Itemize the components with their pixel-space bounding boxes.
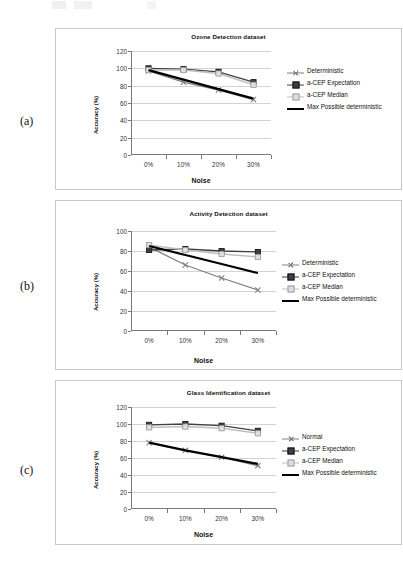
- y-tick-label: 100: [116, 228, 127, 235]
- legend-label: a-CEP Expectation: [302, 445, 355, 453]
- y-tick-label: 0: [123, 152, 127, 159]
- chart-legend: Deterministica-CEP Expectationa-CEP Medi…: [282, 259, 377, 307]
- x-tick-mark: [276, 331, 277, 335]
- x-tick-mark: [271, 155, 272, 159]
- plot-area: 0204060801001200%10%20%30%: [131, 51, 271, 155]
- y-tick-label: 0: [123, 506, 127, 513]
- x-tick-label: 30%: [251, 337, 264, 344]
- legend-label: a-CEP Median: [307, 91, 348, 99]
- series-max-possible-deterministic: [149, 443, 258, 464]
- x-tick-mark: [201, 155, 202, 159]
- legend-label: Deterministic: [302, 259, 338, 267]
- legend-item[interactable]: a-CEP Expectation: [282, 271, 377, 281]
- legend-label: Normal: [302, 433, 322, 441]
- legend-marker-icon: [282, 272, 299, 281]
- x-tick-mark: [204, 509, 205, 513]
- x-tick-mark: [167, 331, 168, 335]
- y-tick-label: 20: [120, 134, 127, 141]
- series-a-cep-median: [147, 424, 261, 436]
- y-tick-mark: [128, 509, 131, 510]
- legend-item[interactable]: Max Possible deterministic: [282, 469, 377, 479]
- x-tick-label: 0%: [145, 337, 154, 344]
- legend-item[interactable]: Deterministic: [287, 67, 382, 77]
- legend-item[interactable]: Deterministic: [282, 259, 377, 269]
- y-tick-label: 80: [120, 82, 127, 89]
- y-axis-title: Accuracy (%): [93, 96, 99, 134]
- legend-marker-icon: [282, 446, 299, 455]
- series-max-possible-deterministic: [149, 70, 254, 99]
- x-tick-label: 30%: [251, 515, 264, 522]
- y-tick-label: 40: [120, 472, 127, 479]
- legend-marker-icon: [287, 80, 304, 89]
- legend-item[interactable]: a-CEP Median: [282, 457, 377, 467]
- x-tick-label: 20%: [215, 337, 228, 344]
- x-tick-mark: [167, 509, 168, 513]
- y-axis-title: Accuracy (%): [93, 273, 99, 311]
- x-axis-title: Noise: [194, 531, 213, 538]
- legend-item[interactable]: Max Possible deterministic: [287, 103, 382, 113]
- x-tick-label: 0%: [145, 515, 154, 522]
- series-layer: [131, 51, 271, 155]
- cropped-text-artifact: [52, 1, 252, 9]
- legend-label: Max Possible deterministic: [302, 469, 377, 477]
- x-tick-label: 0%: [144, 161, 153, 168]
- legend-marker-icon: [282, 296, 299, 305]
- x-tick-label: 10%: [179, 337, 192, 344]
- y-tick-label: 100: [116, 421, 127, 428]
- y-tick-label: 120: [116, 404, 127, 411]
- legend-marker-icon: [287, 92, 304, 101]
- legend-marker-icon: [287, 104, 304, 113]
- y-axis-title: Accuracy (%): [93, 451, 99, 489]
- y-tick-mark: [128, 155, 131, 156]
- legend-marker-icon: [282, 260, 299, 269]
- legend-label: Deterministic: [307, 67, 343, 75]
- panel-label-a: (a): [20, 114, 33, 129]
- legend-item[interactable]: Max Possible deterministic: [282, 295, 377, 305]
- legend-item[interactable]: a-CEP Expectation: [287, 79, 382, 89]
- y-tick-label: 60: [120, 100, 127, 107]
- figure-page: (a) (b) (c) Ozone Detection dataset02040…: [0, 0, 403, 573]
- x-tick-label: 10%: [177, 161, 190, 168]
- chart-legend: Deterministica-CEP Expectationa-CEP Medi…: [287, 67, 382, 115]
- chart-title: Glass Identification dataset: [56, 389, 401, 396]
- plot-area: 0204060801001200%10%20%30%: [131, 407, 276, 509]
- x-tick-mark: [276, 509, 277, 513]
- legend-marker-icon: [282, 434, 299, 443]
- x-tick-label: 10%: [179, 515, 192, 522]
- x-tick-mark: [204, 331, 205, 335]
- x-tick-label: 30%: [247, 161, 260, 168]
- panel-label-b: (b): [20, 279, 34, 294]
- y-tick-label: 40: [120, 288, 127, 295]
- legend-label: a-CEP Median: [302, 457, 343, 465]
- legend-label: Max Possible deterministic: [302, 295, 377, 303]
- y-tick-label: 0: [123, 328, 127, 335]
- y-tick-label: 40: [120, 117, 127, 124]
- x-tick-label: 20%: [212, 161, 225, 168]
- x-tick-mark: [166, 155, 167, 159]
- chart-panel-b: Activity Detection dataset0204060801000%…: [55, 200, 402, 370]
- legend-label: a-CEP Expectation: [307, 79, 360, 87]
- series-layer: [131, 231, 276, 331]
- x-tick-label: 20%: [215, 515, 228, 522]
- y-tick-label: 60: [120, 455, 127, 462]
- legend-label: a-CEP Median: [302, 283, 343, 291]
- chart-legend: Normala-CEP Expectationa-CEP MedianMax P…: [282, 433, 377, 481]
- y-tick-label: 100: [116, 65, 127, 72]
- series-layer: [131, 407, 276, 509]
- y-tick-label: 60: [120, 268, 127, 275]
- y-tick-label: 20: [120, 308, 127, 315]
- plot-area: 0204060801000%10%20%30%: [131, 231, 276, 331]
- chart-panel-a: Ozone Detection dataset0204060801001200%…: [55, 28, 402, 190]
- x-tick-mark: [240, 331, 241, 335]
- y-tick-label: 20: [120, 489, 127, 496]
- legend-marker-icon: [287, 68, 304, 77]
- legend-item[interactable]: a-CEP Median: [282, 283, 377, 293]
- legend-item[interactable]: Normal: [282, 433, 377, 443]
- x-axis-title: Noise: [191, 177, 210, 184]
- y-tick-label: 80: [120, 248, 127, 255]
- chart-title: Activity Detection dataset: [56, 210, 401, 217]
- legend-item[interactable]: a-CEP Expectation: [282, 445, 377, 455]
- y-tick-label: 80: [120, 438, 127, 445]
- legend-label: Max Possible deterministic: [307, 103, 382, 111]
- legend-item[interactable]: a-CEP Median: [287, 91, 382, 101]
